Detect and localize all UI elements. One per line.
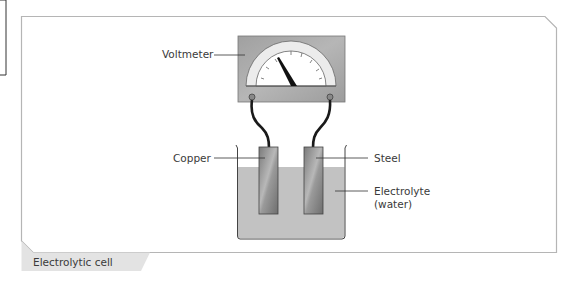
steel-electrode	[304, 147, 323, 214]
electrolyte	[238, 167, 345, 238]
label-voltmeter: Voltmeter	[162, 48, 213, 60]
terminal-right	[327, 94, 333, 100]
copper-electrode	[259, 147, 278, 214]
terminal-left	[249, 94, 255, 100]
figure-caption: Electrolytic cell	[33, 256, 113, 268]
diagram-drawing	[0, 0, 578, 281]
label-electrolyte: Electrolyte	[374, 185, 430, 197]
label-copper: Copper	[173, 152, 211, 164]
label-steel: Steel	[374, 152, 401, 164]
partial-box-edge	[0, 0, 6, 75]
diagram-canvas: Voltmeter Copper Steel Electrolyte (wate…	[0, 0, 578, 281]
label-electrolyte-water: (water)	[374, 198, 412, 210]
